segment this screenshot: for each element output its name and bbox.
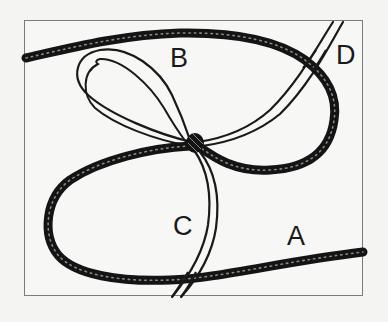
label-a: A	[287, 223, 305, 250]
label-d: D	[336, 42, 356, 69]
label-c: C	[173, 213, 193, 240]
label-b: B	[170, 45, 188, 72]
knot-illustration	[0, 0, 388, 322]
knot-center	[186, 133, 204, 153]
knot-diagram: A B C D	[0, 0, 388, 322]
